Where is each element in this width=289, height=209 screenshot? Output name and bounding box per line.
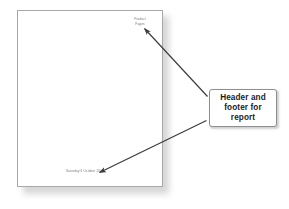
report-page: Product Pages Saturday 6 October 2001 <box>17 10 163 187</box>
page-header-line-2: Pages <box>122 21 158 26</box>
callout-label: Header and footer for report <box>220 93 266 123</box>
page-header-text: Product Pages <box>122 17 158 26</box>
page-footer-line-1: Saturday 6 October 2001 <box>60 169 110 174</box>
illustration-canvas: Product Pages Saturday 6 October 2001 He… <box>0 0 289 209</box>
page-footer-text: Saturday 6 October 2001 <box>60 169 110 174</box>
callout-box: Header and footer for report <box>209 89 277 127</box>
